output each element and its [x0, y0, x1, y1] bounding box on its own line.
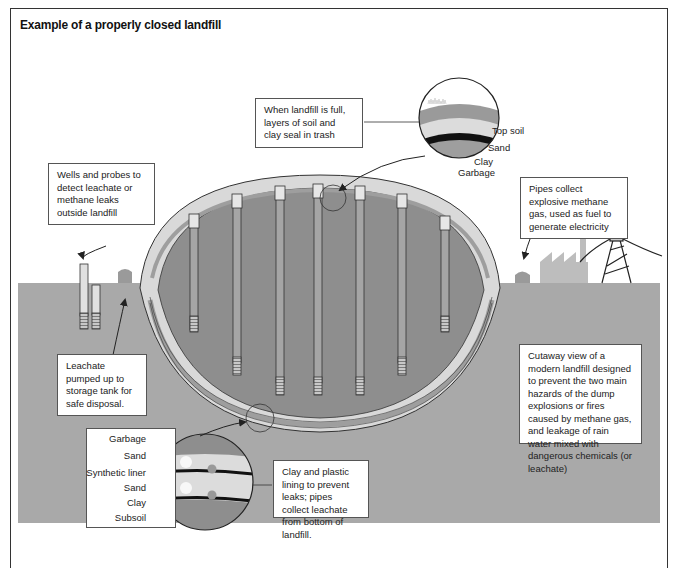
callout-cutaway: Cutaway view of a modern landfill design… [519, 344, 642, 444]
gas-tank [515, 272, 530, 284]
storage-tank [118, 269, 132, 283]
transmission-tower [580, 237, 662, 283]
label-synthetic-liner: Synthetic liner [86, 467, 146, 478]
callout-wells-probes: Wells and probes to detect leachate or m… [48, 163, 155, 225]
label-subsoil: Subsoil [115, 512, 146, 523]
label-top-soil: Top soil [492, 125, 524, 136]
label-sand-bottom-2: Sand [124, 482, 146, 493]
label-clay-top: Clay [474, 156, 493, 167]
label-sand-top: Sand [488, 142, 510, 153]
callout-top-cover: When landfill is full, layers of soil an… [255, 98, 363, 148]
label-garbage-top: Garbage [458, 167, 495, 178]
callout-lining: Clay and plastic lining to prevent leaks… [273, 460, 369, 518]
callout-leachate: Leachate pumped up to storage tank for s… [57, 354, 147, 416]
label-garbage-bottom: Garbage [109, 433, 146, 444]
label-sand-bottom-1: Sand [124, 450, 146, 461]
callout-methane-pipes: Pipes collect explosive methane gas, use… [520, 177, 628, 239]
label-clay-bottom: Clay [127, 497, 146, 508]
